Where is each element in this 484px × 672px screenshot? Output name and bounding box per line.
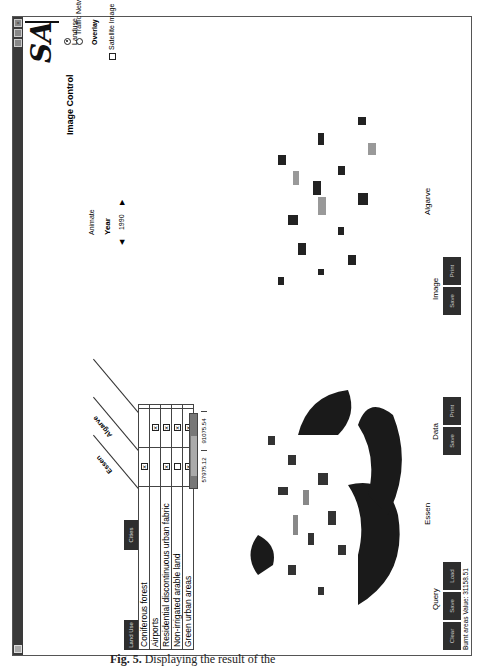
checkbox-essen[interactable]: × [141, 464, 148, 471]
radio-icon[interactable] [76, 38, 83, 45]
checkbox-algarve[interactable]: × [163, 425, 170, 432]
load-button[interactable]: Load [443, 562, 461, 590]
figure-caption: Fig. 5. Displaying the result of the [110, 652, 275, 667]
group-label-image: Image [431, 278, 440, 300]
next-year-icon[interactable]: ▶ [118, 200, 125, 205]
group-label-query: Query [431, 588, 440, 610]
radio-selected-icon[interactable] [64, 38, 71, 45]
year-title: Year [103, 218, 112, 235]
prev-year-icon[interactable]: ◀ [118, 240, 125, 245]
landuse-table: Coniferous forest × Airports × Residenti… [138, 404, 194, 650]
row-label: Non-irrigated arable land [172, 486, 182, 649]
essen-landuse-map [218, 375, 418, 635]
layer-radio-traffic[interactable]: Traffic Network [75, 0, 83, 45]
image-save-button[interactable]: Save [443, 287, 461, 315]
overlay-satellite-checkbox[interactable]: Satellite Image [108, 4, 116, 60]
clear-button[interactable]: Clear [443, 622, 461, 650]
row-label: Green urban areas [183, 486, 193, 649]
scrollbar-thumb[interactable] [191, 436, 197, 476]
image-print-button[interactable]: Print [443, 257, 461, 285]
algarve-landuse-map [218, 85, 418, 325]
checkbox-essen[interactable] [174, 464, 181, 471]
total-essen: 57975.12 [201, 450, 207, 489]
group-label-data: Data [431, 423, 440, 440]
table-row: Airports × [150, 405, 161, 649]
data-print-button[interactable]: Print [443, 397, 461, 425]
animate-toggle[interactable]: Animate [88, 209, 95, 235]
checkbox-algarve[interactable]: × [152, 425, 159, 432]
row-label: Airports [150, 486, 160, 649]
system-menu-icon[interactable] [14, 645, 22, 653]
status-bar: Burnt areas Value: 31158.51 [462, 568, 469, 650]
minimize-icon[interactable] [14, 39, 22, 47]
map-essen[interactable] [218, 375, 418, 635]
title-bar: × [13, 17, 23, 655]
map-algarve[interactable] [218, 85, 418, 325]
row-label: Coniferous forest [139, 486, 149, 649]
checkbox-icon[interactable] [109, 53, 116, 60]
application-window: × SA Land Use Cities Essen Algarve Conif… [12, 16, 472, 656]
horizontal-scrollbar[interactable] [189, 413, 198, 489]
overlay-title: Overlay [91, 19, 98, 45]
year-stepper[interactable]: ◀ 1990 ▶ [118, 200, 126, 245]
row-label: Residential discontinuous urban fabric [161, 486, 171, 649]
query-save-button[interactable]: Save [443, 592, 461, 620]
column-header-essen[interactable]: Essen [95, 455, 114, 475]
year-value: 1990 [118, 214, 125, 230]
data-save-button[interactable]: Save [443, 427, 461, 455]
table-row: Non-irrigated arable land × [172, 405, 183, 649]
image-control-panel: Image Control Landuse Traffic Network Ov… [63, 25, 153, 275]
map-label-essen: Essen [423, 503, 432, 525]
image-control-title: Image Control [65, 74, 75, 135]
close-icon[interactable]: × [14, 19, 22, 27]
tab-land-use[interactable]: Land Use [124, 620, 138, 650]
map-label-algarve: Algarve [423, 188, 432, 215]
table-row: Coniferous forest × [139, 405, 150, 649]
total-algarve: 91075.54 [201, 411, 207, 450]
table-row: Residential discontinuous urban fabric ×… [161, 405, 172, 649]
checkbox-essen[interactable]: × [163, 464, 170, 471]
checkbox-algarve[interactable]: × [174, 425, 181, 432]
app-logo: SA [25, 21, 59, 63]
caption-text: Displaying the result of the [145, 652, 276, 666]
figure-number: Fig. 5. [110, 652, 142, 666]
totals-row: 57975.12 91075.54 [201, 411, 207, 489]
maximize-icon[interactable] [14, 29, 22, 37]
tab-cities[interactable]: Cities [124, 520, 138, 550]
